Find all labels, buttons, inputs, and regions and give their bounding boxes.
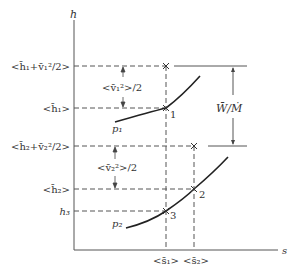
label-h2: <h̄₂>: [43, 184, 70, 195]
s2-tick-label: <s̄₂>: [183, 255, 209, 266]
ke1-interval-label: <v̄₁²>/2: [102, 82, 142, 93]
h-s-diagram: h s <h̄₁+v̄₁²/2> <h̄₁> <h̄₂+v̄₂²/2> <h̄₂…: [0, 0, 303, 280]
label-h1: <h̄₁>: [43, 103, 70, 114]
point-1-label: 1: [170, 109, 176, 120]
label-h3: h₃: [60, 206, 70, 217]
curve-p2-label: p₂: [112, 218, 122, 229]
x-axis-label: s: [282, 245, 287, 256]
label-h1-total: <h̄₁+v̄₁²/2>: [11, 61, 70, 72]
label-h2-total: <h̄₂+v̄₂²/2>: [11, 141, 70, 152]
y-axis-label: h: [70, 8, 77, 21]
s1-tick-label: <s̄₁>: [153, 255, 179, 266]
point-3-label: 3: [170, 210, 176, 221]
isobar-p2: [126, 157, 228, 228]
ke2-interval-label: <v̄₂²>/2: [97, 162, 137, 173]
work-interval-label: W̄/Ṁ: [216, 101, 243, 115]
point-2-label: 2: [199, 189, 205, 200]
curve-p1-label: p₁: [112, 123, 122, 134]
